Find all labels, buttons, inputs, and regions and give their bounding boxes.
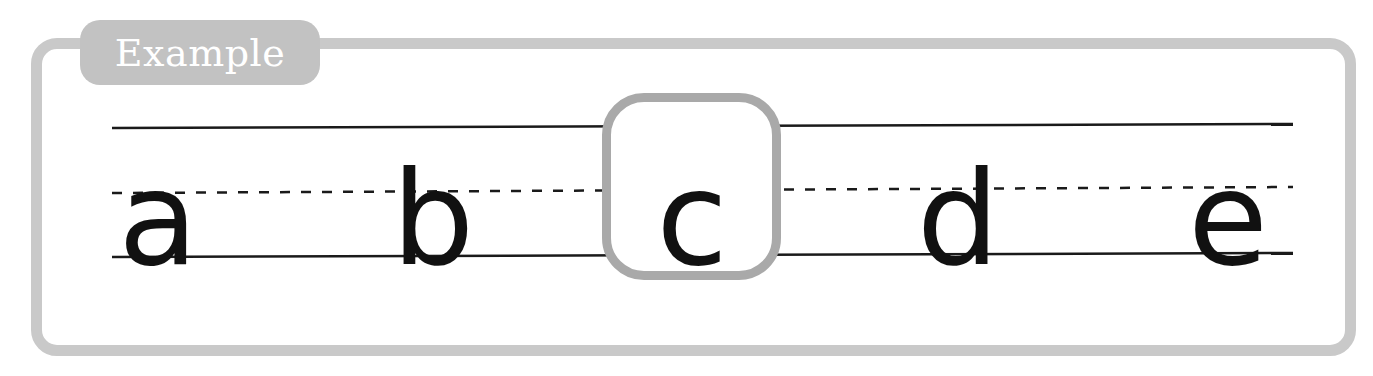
letter-d: d: [917, 154, 1000, 284]
letter-e: e: [1188, 154, 1268, 284]
letter-c: c: [656, 154, 727, 284]
letter-b: b: [392, 154, 475, 284]
letter-a: a: [118, 154, 198, 284]
